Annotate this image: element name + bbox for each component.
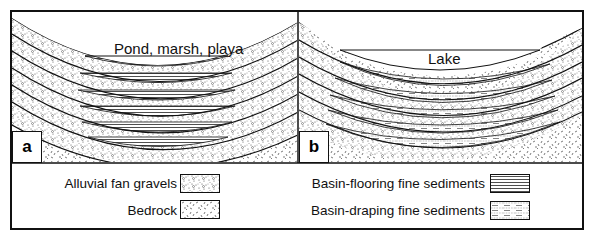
figure-frame	[10, 10, 584, 230]
panel-b-label: Lake	[428, 50, 461, 67]
legend-label-alluvial: Alluvial fan gravels	[64, 176, 177, 191]
bedrock-pattern-icon	[180, 200, 220, 219]
draping-pattern-icon	[490, 201, 530, 220]
legend-label-draping: Basin-draping fine sediments	[311, 203, 485, 218]
flooring-pattern-icon	[490, 174, 530, 193]
panel-a-letter: a	[12, 131, 42, 163]
panel-a-label: Pond, marsh, playa	[114, 40, 243, 57]
legend-label-bedrock: Bedrock	[127, 203, 177, 218]
gravel-pattern-icon	[180, 174, 220, 193]
legend-label-flooring: Basin-flooring fine sediments	[312, 176, 485, 191]
panel-b-letter: b	[299, 131, 329, 163]
